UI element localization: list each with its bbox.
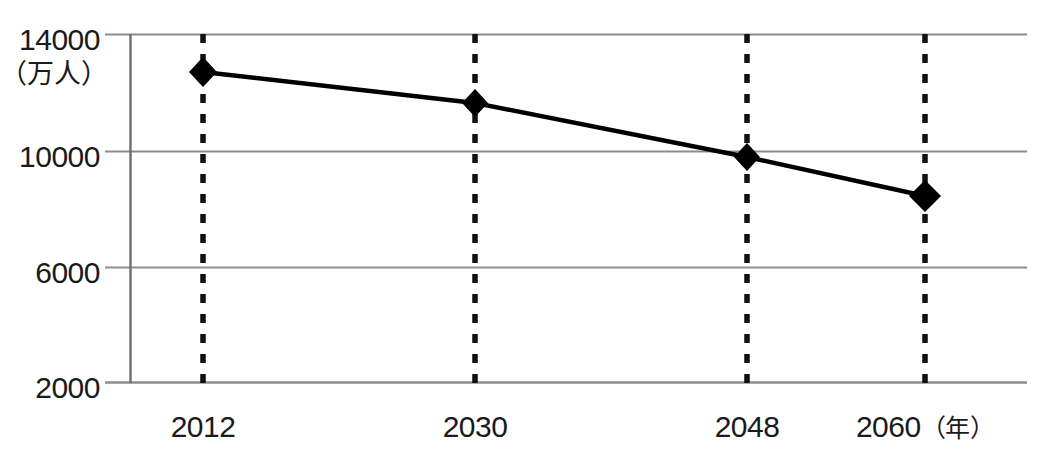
data-point-markers <box>189 57 941 212</box>
population-line-chart: 14000 10000 6000 2000 （万人） <box>0 0 1039 476</box>
data-point-marker-2030 <box>462 89 488 117</box>
x-tick-label-2012: 2012 <box>171 410 236 444</box>
gridlines <box>105 35 1027 383</box>
x-axis-unit-label: （年） <box>921 414 995 443</box>
data-point-marker-2060 <box>909 180 941 212</box>
data-point-marker-2012 <box>189 57 217 87</box>
x-tick-label-2030: 2030 <box>443 410 508 444</box>
x-tick-label-2048: 2048 <box>715 410 780 444</box>
data-point-marker-2048 <box>734 143 760 171</box>
series-line-total-population <box>203 72 925 196</box>
plot-area <box>0 0 1039 476</box>
x-tick-label-2060: 2060（年） <box>856 410 994 446</box>
x-tick-label-2060-text: 2060 <box>856 410 921 443</box>
